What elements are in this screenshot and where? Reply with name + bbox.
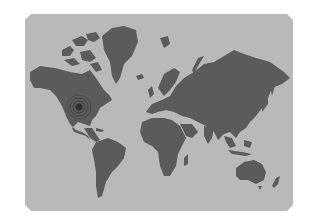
world-map-svg <box>25 14 293 211</box>
world-map: World map Location marker <box>25 14 293 211</box>
